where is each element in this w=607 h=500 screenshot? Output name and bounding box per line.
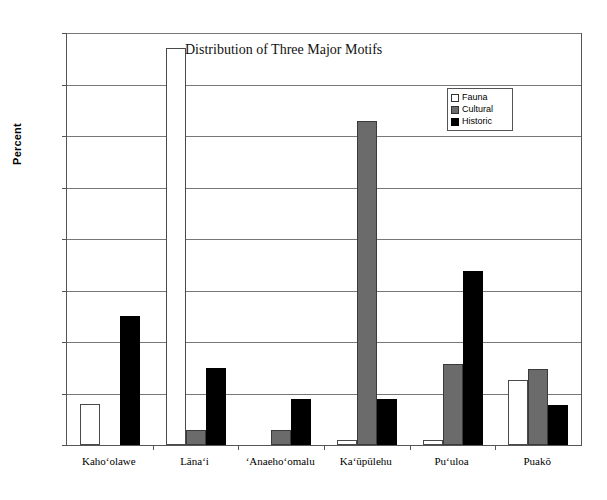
x-label-2: ʻAnaehoʻomalu — [246, 455, 315, 467]
x-label-4: Puʻuloa — [434, 455, 468, 467]
y-tick-mark-40 — [62, 239, 67, 240]
gridline-10 — [67, 394, 581, 395]
legend-label-cultural: Cultural — [462, 105, 493, 114]
x-label-0: Kahoʻolawe — [82, 455, 136, 467]
legend-item-fauna: Fauna — [451, 92, 509, 103]
legend-label-historic: Historic — [462, 117, 492, 126]
y-tick-mark-60 — [62, 136, 67, 137]
bar-fauna-1 — [166, 48, 186, 445]
x-separator-4 — [495, 445, 496, 450]
legend-item-historic: Historic — [451, 116, 509, 127]
legend-swatch-historic-icon — [451, 118, 459, 126]
x-separator-1 — [238, 445, 239, 450]
x-separator-3 — [410, 445, 411, 450]
x-label-3: Kaʻūpūlehu — [340, 455, 392, 467]
bar-fauna-4 — [423, 440, 443, 445]
bar-historic-0 — [120, 316, 140, 445]
x-separator-2 — [324, 445, 325, 450]
y-tick-mark-20 — [62, 342, 67, 343]
y-tick-mark-0 — [62, 445, 67, 446]
bar-cultural-2 — [271, 430, 291, 445]
x-label-1: Lānaʻi — [180, 455, 209, 467]
legend-item-cultural: Cultural — [451, 104, 509, 115]
bar-fauna-3 — [337, 440, 357, 445]
y-tick-mark-70 — [62, 85, 67, 86]
x-label-5: Puakō — [523, 455, 551, 467]
bar-cultural-3 — [357, 121, 377, 445]
y-axis-title: Percent — [11, 99, 23, 189]
legend-swatch-cultural-icon — [451, 106, 459, 114]
bar-cultural-1 — [186, 430, 206, 445]
y-tick-mark-80 — [62, 33, 67, 34]
y-tick-mark-10 — [62, 394, 67, 395]
gridline-70 — [67, 85, 581, 86]
gridline-60 — [67, 136, 581, 137]
gridline-20 — [67, 342, 581, 343]
bar-historic-4 — [463, 271, 483, 445]
gridline-30 — [67, 291, 581, 292]
gridline-40 — [67, 239, 581, 240]
bar-historic-1 — [206, 368, 226, 445]
legend-label-fauna: Fauna — [462, 93, 488, 102]
gridline-50 — [67, 188, 581, 189]
chart-legend: FaunaCulturalHistoric — [447, 88, 513, 131]
bar-historic-3 — [377, 399, 397, 445]
bar-fauna-0 — [80, 404, 100, 445]
x-separator-0 — [153, 445, 154, 450]
gridline-80 — [67, 33, 581, 34]
bar-historic-2 — [291, 399, 311, 445]
bar-cultural-5 — [528, 369, 548, 445]
bar-chart: Percent 01020304050607080 Distribution o… — [0, 0, 607, 500]
bar-fauna-5 — [508, 380, 528, 445]
y-tick-mark-50 — [62, 188, 67, 189]
bar-cultural-4 — [443, 364, 463, 445]
bar-historic-5 — [548, 405, 568, 445]
y-tick-mark-30 — [62, 291, 67, 292]
chart-title: Distribution of Three Major Motifs — [185, 42, 382, 58]
legend-swatch-fauna-icon — [451, 94, 459, 102]
